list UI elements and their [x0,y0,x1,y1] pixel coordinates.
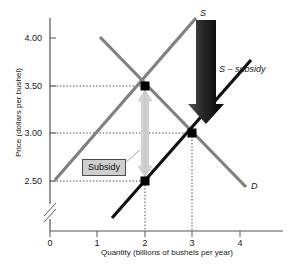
supply-curve [55,18,196,180]
x-tick-label-4: 4 [230,238,250,248]
marker-equilibrium-with-subsidy [188,129,197,138]
demand-curve-label: D [251,181,258,191]
marker-price-received-with-subsidy [141,177,150,186]
subsidy-annotation-box: Subsidy [82,159,126,176]
y-tick-label-1: 2.50 [10,176,42,186]
marker-equilibrium-no-subsidy [141,82,150,91]
y-tick-label-2: 3.00 [10,128,42,138]
y-axis [44,18,56,231]
y-tick-label-3: 3.50 [10,81,42,91]
y-tick-label-4: 4.00 [10,33,42,43]
supply-subsidy-curve [112,60,251,218]
y-axis-title: Price (dollars per bushel) [14,58,23,168]
chart-canvas [0,0,290,266]
supply-curve-label: S [200,8,206,18]
supply-subsidy-curve-label: S – subsidy [219,64,266,74]
y-axis-ticks [50,38,56,181]
subsidy-leader-line [124,150,140,164]
chart-figure: Price (dollars per bushel) Quantity (bil… [0,0,290,266]
x-tick-label-1: 1 [87,238,107,248]
x-axis-ticks [50,231,240,237]
x-tick-label-2: 2 [135,238,155,248]
x-tick-label-3: 3 [182,238,202,248]
x-tick-label-0: 0 [40,238,60,248]
x-axis-title: Quantity (billions of bushels per year) [48,248,286,257]
